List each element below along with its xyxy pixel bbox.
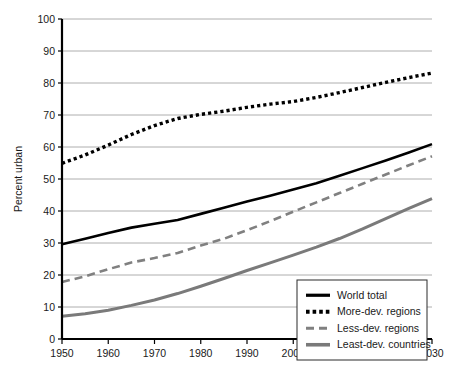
legend-label-1: More-dev. regions — [337, 305, 421, 317]
y-tick-label-20: 20 — [43, 269, 55, 281]
y-tick-label-40: 40 — [43, 205, 55, 217]
line-chart: 0102030405060708090100195019601970198019… — [0, 0, 460, 382]
series-line-less-dev-regions — [62, 156, 432, 282]
x-tick-label-1950: 1950 — [50, 347, 74, 359]
legend-label-3: Least-dev. countries — [337, 338, 431, 350]
x-tick-label-1980: 1980 — [189, 347, 213, 359]
legend-label-0: World total — [337, 289, 387, 301]
x-tick-label-1960: 1960 — [97, 347, 121, 359]
y-axis-title: Percent urban — [12, 146, 24, 212]
series-line-world-total — [62, 144, 432, 244]
chart-container: 0102030405060708090100195019601970198019… — [0, 0, 460, 382]
y-tick-label-0: 0 — [49, 333, 55, 345]
x-tick-label-1970: 1970 — [143, 347, 167, 359]
y-tick-label-90: 90 — [43, 45, 55, 57]
legend-label-2: Less-dev. regions — [337, 322, 419, 334]
series-line-more-dev-regions — [62, 73, 432, 163]
y-axis-ticks: 0102030405060708090100 — [37, 13, 62, 345]
y-tick-label-30: 30 — [43, 237, 55, 249]
y-tick-label-10: 10 — [43, 301, 55, 313]
legend: World totalMore-dev. regionsLess-dev. re… — [297, 280, 431, 360]
y-tick-label-70: 70 — [43, 109, 55, 121]
y-tick-label-50: 50 — [43, 173, 55, 185]
y-tick-label-60: 60 — [43, 141, 55, 153]
x-tick-label-1990: 1990 — [235, 347, 259, 359]
y-tick-label-80: 80 — [43, 77, 55, 89]
y-tick-label-100: 100 — [37, 13, 55, 25]
